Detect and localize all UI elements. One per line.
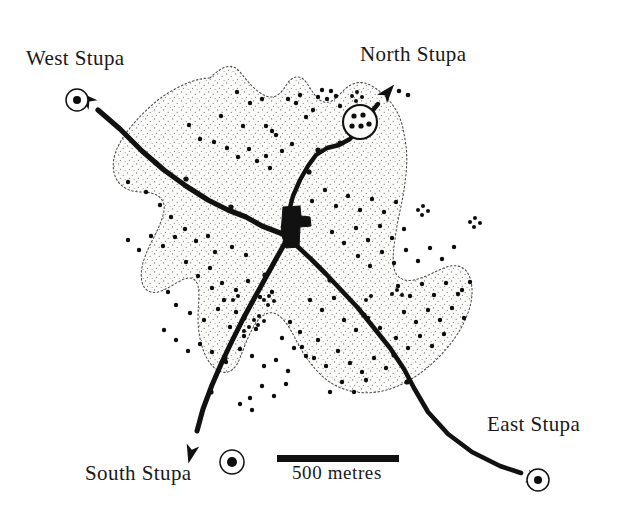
label-west-stupa: West Stupa bbox=[26, 48, 125, 69]
structure-dot bbox=[244, 253, 248, 257]
structure-dot bbox=[216, 307, 220, 311]
structure-dot bbox=[166, 290, 170, 294]
structure-dot bbox=[268, 166, 272, 170]
structure-dot bbox=[274, 358, 278, 362]
structure-dot bbox=[346, 194, 350, 198]
structure-dot bbox=[198, 342, 202, 346]
structure-dot bbox=[442, 332, 446, 336]
structure-dot bbox=[323, 188, 327, 192]
structure-dot bbox=[462, 316, 466, 320]
structure-dot bbox=[378, 224, 382, 228]
structure-dot bbox=[390, 236, 394, 240]
structure-dot bbox=[406, 346, 410, 350]
structure-dot bbox=[304, 354, 308, 358]
structure-dot bbox=[356, 254, 360, 258]
structure-dot bbox=[328, 390, 332, 394]
structure-dot bbox=[394, 336, 398, 340]
structure-dot bbox=[272, 394, 276, 398]
structure-dot bbox=[432, 293, 436, 297]
structure-dot bbox=[354, 328, 358, 332]
structure-cluster-dot bbox=[272, 299, 276, 303]
structure-dot bbox=[324, 364, 328, 368]
structure-dot bbox=[311, 108, 315, 112]
structure-dot bbox=[236, 155, 240, 159]
structure-dot bbox=[294, 101, 298, 105]
enclosure-structure-dot bbox=[366, 121, 371, 126]
structure-dot bbox=[186, 349, 190, 353]
structure-dot bbox=[264, 154, 268, 158]
structure-cluster-dot bbox=[267, 294, 271, 298]
structure-dot bbox=[235, 90, 239, 94]
structure-dot bbox=[414, 320, 418, 324]
structure-dot bbox=[288, 320, 292, 324]
road-tick-mark bbox=[327, 277, 332, 282]
structure-dot bbox=[161, 244, 165, 248]
structure-dot bbox=[284, 382, 288, 386]
structure-dot bbox=[290, 142, 294, 146]
structure-dot bbox=[402, 310, 406, 314]
road-tick-mark bbox=[228, 204, 233, 209]
structure-cluster-dot bbox=[262, 298, 266, 302]
structure-cluster-dot bbox=[236, 294, 240, 298]
stupa-marker-west bbox=[66, 89, 88, 111]
structure-dot bbox=[173, 235, 177, 239]
structure-dot bbox=[304, 115, 308, 119]
structure-dot bbox=[248, 101, 252, 105]
label-north-stupa: North Stupa bbox=[360, 44, 466, 65]
structure-dot bbox=[210, 286, 214, 290]
structure-dot bbox=[194, 239, 198, 243]
structure-dot bbox=[220, 281, 224, 285]
structure-dot bbox=[158, 203, 162, 207]
enclosure-structure-dot bbox=[349, 123, 354, 128]
structure-dot bbox=[228, 325, 232, 329]
structure-dot bbox=[342, 241, 346, 245]
structure-cluster-dot bbox=[247, 325, 251, 329]
structure-dot bbox=[370, 197, 374, 201]
structure-dot bbox=[188, 311, 192, 315]
structure-dot bbox=[255, 159, 259, 163]
outlier-structure-dots-layer bbox=[397, 89, 411, 98]
structure-cluster-dot bbox=[400, 293, 404, 297]
structure-dot bbox=[396, 284, 400, 288]
structure-dot bbox=[360, 370, 364, 374]
structure-dot bbox=[246, 279, 250, 283]
structure-dot bbox=[144, 190, 148, 194]
road-tick-mark bbox=[241, 315, 246, 320]
road-tick-mark bbox=[361, 312, 366, 317]
structure-dot bbox=[196, 274, 200, 278]
structure-dot bbox=[187, 123, 191, 127]
structure-cluster-dot bbox=[478, 221, 482, 225]
road-tick-mark bbox=[262, 272, 267, 277]
road-tick-mark bbox=[391, 352, 396, 357]
structure-dot bbox=[126, 180, 130, 184]
structure-dot bbox=[420, 282, 424, 286]
structure-dot bbox=[358, 208, 362, 212]
structure-cluster-dot bbox=[390, 292, 394, 296]
structure-dot bbox=[247, 147, 251, 151]
structure-dot bbox=[270, 129, 274, 133]
structure-cluster-dot bbox=[354, 99, 358, 103]
structure-dot bbox=[468, 280, 472, 284]
structure-dot bbox=[366, 238, 370, 242]
scale-bar bbox=[277, 455, 399, 462]
structure-dot bbox=[248, 396, 252, 400]
structure-dot bbox=[222, 298, 226, 302]
structure-cluster-dot bbox=[395, 288, 399, 292]
structure-dot bbox=[202, 318, 206, 322]
structure-dot bbox=[274, 133, 278, 137]
structure-dot bbox=[382, 210, 386, 214]
road-tick-mark bbox=[337, 140, 342, 145]
outlier-structure-dot bbox=[397, 89, 402, 94]
structure-dot bbox=[174, 338, 178, 342]
structure-cluster-dot bbox=[231, 298, 235, 302]
structure-dot bbox=[444, 281, 448, 285]
structure-dot bbox=[234, 288, 238, 292]
structure-dot bbox=[230, 245, 234, 249]
structure-dot bbox=[162, 328, 166, 332]
structure-cluster-dot bbox=[355, 90, 359, 94]
structure-dot bbox=[298, 330, 302, 334]
structure-cluster-dot bbox=[426, 209, 430, 213]
structure-dot bbox=[456, 292, 460, 296]
structure-dot bbox=[126, 238, 130, 242]
structure-dot bbox=[280, 149, 284, 153]
